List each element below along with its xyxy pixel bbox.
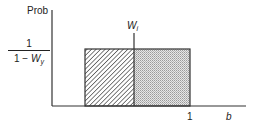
fraction-bar	[8, 50, 50, 51]
marker-sub: i	[136, 25, 138, 32]
x-axis-label: b	[226, 112, 232, 122]
hatched-region	[85, 49, 134, 106]
y-tick-label-fraction: 1 1 − Wy	[8, 38, 50, 65]
denominator-sub: y	[40, 58, 44, 65]
fraction-numerator: 1	[8, 38, 50, 49]
x-tick-label-one: 1	[187, 112, 193, 122]
denominator-prefix: 1 −	[14, 53, 31, 64]
wi-marker-label: Wi	[127, 21, 138, 31]
fraction-denominator: 1 − Wy	[8, 53, 50, 65]
y-axis-label: Prob	[27, 6, 48, 16]
stippled-region	[134, 49, 190, 106]
